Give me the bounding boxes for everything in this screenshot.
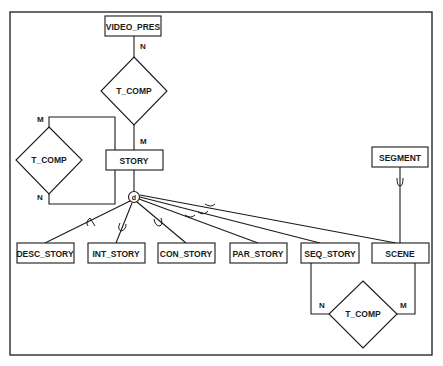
entity-label: SCENE (385, 249, 415, 259)
relationship-t-comp-top[interactable]: T_COMP (101, 57, 167, 125)
er-diagram: VIDEO_PRES N T_COMP M STORY M N T_COMP (0, 0, 443, 366)
specialization-lines (45, 195, 396, 243)
entity-video-pres[interactable]: VIDEO_PRES (105, 16, 161, 36)
entity-label: SEQ_STORY (304, 249, 356, 259)
subset-icon (198, 211, 208, 214)
entity-con-story[interactable]: CON_STORY (158, 243, 215, 263)
entity-label: PAR_STORY (233, 249, 284, 259)
cardinality-label: N (319, 301, 325, 310)
relationship-t-comp-bottom[interactable]: T_COMP (329, 281, 397, 348)
entity-seq-story[interactable]: SEQ_STORY (301, 243, 359, 263)
entity-scene[interactable]: SCENE (372, 243, 429, 263)
entity-label: INT_STORY (92, 249, 140, 259)
relationship-label: T_COMP (31, 155, 67, 165)
entity-story[interactable]: STORY (106, 150, 163, 170)
cardinality-label: M (400, 301, 407, 310)
cardinality-label: N (140, 42, 146, 51)
specialization-disjoint-circle: d (129, 192, 140, 203)
subset-symbols (87, 204, 215, 231)
entity-par-story[interactable]: PAR_STORY (230, 243, 287, 263)
subset-icon (205, 204, 215, 206)
entity-desc-story[interactable]: DESC_STORY (16, 243, 74, 263)
entity-label: SEGMENT (379, 153, 422, 163)
relationship-label: T_COMP (345, 309, 381, 319)
cardinality-label: M (37, 115, 44, 124)
cardinality-label: N (37, 193, 43, 202)
entity-label: CON_STORY (160, 249, 213, 259)
entity-int-story[interactable]: INT_STORY (88, 243, 145, 263)
entity-label: STORY (120, 156, 149, 166)
relationship-label: T_COMP (116, 86, 152, 96)
cardinality-label: M (140, 137, 147, 146)
disjoint-symbol: d (132, 194, 136, 201)
entity-segment[interactable]: SEGMENT (372, 147, 428, 167)
relationship-t-comp-left[interactable]: T_COMP (16, 127, 82, 194)
entity-label: VIDEO_PRES (106, 22, 161, 32)
entity-label: DESC_STORY (16, 249, 73, 259)
